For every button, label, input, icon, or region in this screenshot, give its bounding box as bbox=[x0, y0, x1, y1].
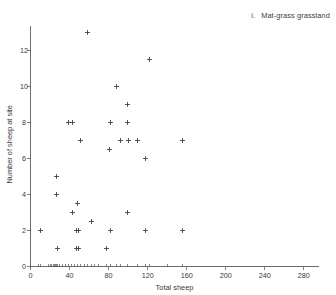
data-point bbox=[89, 219, 94, 224]
data-point bbox=[143, 156, 148, 161]
y-tick-label: 8 bbox=[22, 118, 26, 127]
y-tick-label: 0 bbox=[22, 262, 26, 271]
data-point bbox=[125, 120, 130, 125]
data-point bbox=[54, 174, 59, 179]
data-point bbox=[143, 228, 148, 233]
data-point bbox=[125, 210, 130, 215]
data-point bbox=[114, 84, 119, 89]
data-point bbox=[55, 246, 60, 251]
data-point-markers bbox=[38, 30, 186, 251]
data-point bbox=[118, 138, 123, 143]
y-tick-label: 12 bbox=[20, 46, 28, 55]
data-point bbox=[135, 138, 140, 143]
data-point bbox=[85, 30, 90, 35]
data-point bbox=[107, 147, 112, 152]
x-axis-ticks bbox=[31, 267, 304, 270]
scatter-plot-figure: i.Mat-grass grassland 040801201602002402… bbox=[0, 0, 336, 295]
x-axis-title: Total sheep bbox=[156, 283, 194, 292]
data-point bbox=[70, 120, 75, 125]
data-point bbox=[126, 138, 131, 143]
x-tick-label: 200 bbox=[220, 271, 232, 280]
x-tick-label: 240 bbox=[259, 271, 271, 280]
data-point bbox=[108, 120, 113, 125]
data-point bbox=[70, 210, 75, 215]
x-tick-label: 0 bbox=[29, 271, 33, 280]
x-tick-label: 280 bbox=[298, 271, 310, 280]
plot-canvas: 04080120160200240280 024681012 Total she… bbox=[0, 0, 336, 295]
data-point bbox=[104, 246, 109, 251]
data-point bbox=[78, 138, 83, 143]
x-tick-label: 160 bbox=[181, 271, 193, 280]
x-axis-tick-labels: 04080120160200240280 bbox=[29, 271, 310, 280]
data-point bbox=[54, 192, 59, 197]
x-tick-label: 120 bbox=[142, 271, 154, 280]
data-point bbox=[180, 228, 185, 233]
y-axis-title: Number of sheep at site bbox=[5, 105, 14, 183]
data-point bbox=[147, 57, 152, 62]
data-point bbox=[38, 228, 43, 233]
y-tick-label: 10 bbox=[20, 82, 28, 91]
y-axis-tick-labels: 024681012 bbox=[20, 46, 28, 271]
y-tick-label: 6 bbox=[22, 154, 26, 163]
data-point bbox=[125, 102, 130, 107]
y-tick-label: 4 bbox=[22, 190, 26, 199]
data-point bbox=[180, 138, 185, 143]
x-tick-label: 40 bbox=[66, 271, 74, 280]
data-point bbox=[108, 228, 113, 233]
y-tick-label: 2 bbox=[22, 226, 26, 235]
data-point bbox=[75, 201, 80, 206]
x-tick-label: 80 bbox=[105, 271, 113, 280]
